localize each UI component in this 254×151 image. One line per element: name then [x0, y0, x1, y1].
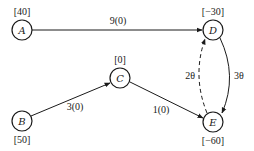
node-e: E [−60]: [202, 112, 224, 146]
node-label-e: E: [208, 117, 217, 128]
node-label-c: C: [116, 73, 124, 84]
supply-label-e: [−60]: [202, 135, 224, 146]
edge-b-to-c: 3(0): [31, 83, 110, 116]
edge-label-d-e: 3θ: [234, 70, 244, 81]
supply-label-c: [0]: [114, 54, 126, 65]
node-d: [−30] D: [202, 6, 224, 40]
node-a: [40] A: [12, 6, 32, 40]
edge-label-b-c: 3(0): [67, 101, 84, 113]
node-b: B [50]: [12, 111, 32, 145]
supply-label-d: [−30]: [202, 6, 224, 17]
edge-label-e-d: 2θ: [185, 70, 195, 81]
network-diagram: 9(0) 3(0) 1(0) 3θ 2θ [40] A B [50] [0] C: [0, 0, 254, 151]
edge-a-to-d: 9(0): [32, 15, 202, 30]
supply-label-b: [50]: [14, 134, 31, 145]
edge-label-c-e: 1(0): [153, 104, 170, 116]
node-label-a: A: [17, 25, 25, 36]
supply-label-a: [40]: [14, 6, 31, 17]
node-label-d: D: [208, 25, 217, 36]
edge-e-to-d: 2θ: [185, 39, 207, 113]
node-label-b: B: [17, 116, 25, 127]
edge-label-a-d: 9(0): [110, 15, 127, 27]
edge-d-to-e: 3θ: [220, 38, 244, 113]
node-c: [0] C: [110, 54, 130, 88]
edge-c-to-e: 1(0): [130, 82, 203, 118]
